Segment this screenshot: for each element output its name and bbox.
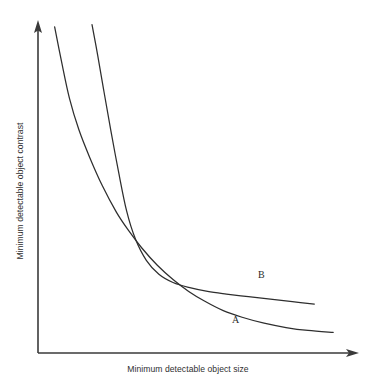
curve-a-path: [55, 27, 334, 333]
chart-figure: A B Minimum detectable object size Minim…: [0, 0, 376, 381]
x-axis-title: Minimum detectable object size: [0, 364, 376, 374]
x-axis-group: [38, 349, 359, 357]
y-axis-group: [34, 20, 42, 353]
y-axis-title: Minimum detectable object contrast: [15, 122, 25, 259]
y-axis-title-wrap: Minimum detectable object contrast: [8, 0, 32, 381]
curve-b-label: B: [258, 270, 265, 280]
chart-canvas: [0, 0, 376, 381]
curve-b-path: [92, 25, 314, 304]
curve-a-label: A: [232, 315, 239, 325]
